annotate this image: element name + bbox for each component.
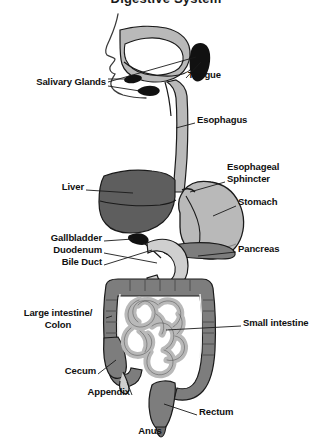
label-appendix: Appendix — [60, 386, 130, 398]
liver-shape — [99, 170, 175, 233]
leader-duodenum — [104, 253, 157, 263]
label-bile-duct: Bile Duct — [38, 256, 102, 268]
label-pancreas: Pancreas — [238, 243, 302, 255]
label-small-intestine: Small intestine — [243, 317, 331, 329]
label-duodenum: Duodenum — [26, 244, 102, 256]
small-intestine-shape — [124, 300, 184, 375]
salivary-gland-lower-shape — [138, 86, 160, 96]
label-liver: Liver — [38, 181, 84, 193]
label-cecum: Cecum — [40, 365, 96, 377]
label-large-intestine: Large intestine/ Colon — [8, 307, 108, 330]
label-esophagus: Esophagus — [197, 114, 271, 126]
label-esophageal-sphincter: Esophageal Sphincter — [227, 161, 307, 184]
label-salivary-glands: Salivary Glands — [12, 76, 106, 88]
head-profile-group — [106, 14, 211, 116]
rectum-shape — [149, 381, 175, 431]
label-gallbladder: Gallbladder — [20, 232, 102, 244]
small-intestine-group — [124, 300, 184, 375]
leader-bile-duct — [104, 250, 152, 265]
leader-gallbladder — [104, 239, 133, 241]
anatomy-illustration — [0, 0, 332, 448]
label-rectum: Rectum — [199, 406, 253, 418]
liver-group — [99, 170, 176, 233]
throat-wall-left — [165, 82, 171, 116]
label-stomach: Stomach — [238, 196, 298, 208]
label-anus: Anus — [128, 425, 172, 437]
label-tongue: Tongue — [188, 69, 248, 81]
digestive-system-diagram: Digestive System — [0, 0, 332, 448]
